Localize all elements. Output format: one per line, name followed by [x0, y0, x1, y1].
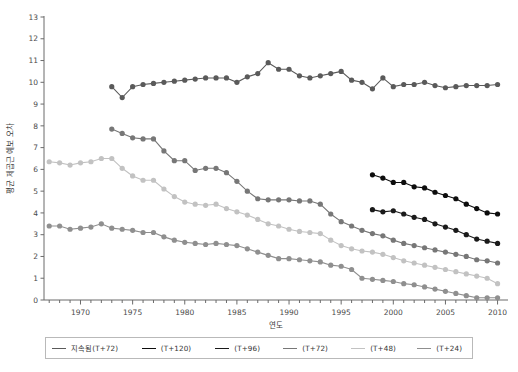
data-point-marker — [401, 258, 406, 263]
data-point-marker — [130, 173, 135, 178]
data-point-marker — [297, 73, 302, 78]
x-tick-label: 1975 — [123, 308, 142, 317]
legend-line-swatch — [142, 348, 156, 349]
series-path — [49, 224, 497, 298]
data-point-marker — [255, 250, 260, 255]
data-point-marker — [349, 78, 354, 83]
data-point-marker — [307, 230, 312, 235]
data-point-marker — [401, 281, 406, 286]
series-t24 — [47, 221, 501, 300]
data-point-marker — [328, 71, 333, 76]
data-point-marker — [307, 198, 312, 203]
data-point-marker — [245, 189, 250, 194]
data-point-marker — [266, 253, 271, 258]
data-point-marker — [57, 223, 62, 228]
data-point-marker — [464, 271, 469, 276]
data-point-marker — [485, 276, 490, 281]
data-point-marker — [297, 257, 302, 262]
data-point-marker — [182, 240, 187, 245]
data-point-marker — [276, 197, 281, 202]
data-point-marker — [67, 227, 72, 232]
data-point-marker — [464, 202, 469, 207]
legend-item-5[interactable]: (T+48) — [345, 338, 411, 358]
data-point-marker — [193, 202, 198, 207]
data-point-marker — [380, 278, 385, 283]
legend-label: (T+96) — [234, 344, 260, 353]
data-point-marker — [307, 75, 312, 80]
series-지속됨t72 — [109, 60, 500, 100]
data-point-marker — [495, 241, 500, 246]
data-point-marker — [151, 230, 156, 235]
data-point-marker — [370, 86, 375, 91]
data-point-marker — [318, 231, 323, 236]
data-point-marker — [464, 232, 469, 237]
data-point-marker — [422, 245, 427, 250]
data-point-marker — [266, 221, 271, 226]
series-t72 — [109, 127, 500, 266]
data-point-marker — [307, 258, 312, 263]
data-point-marker — [485, 258, 490, 263]
data-point-marker — [432, 247, 437, 252]
data-point-marker — [47, 159, 52, 164]
data-point-marker — [453, 196, 458, 201]
data-point-marker — [120, 95, 125, 100]
data-point-marker — [276, 256, 281, 261]
data-point-marker — [172, 158, 177, 163]
data-point-marker — [391, 279, 396, 284]
data-point-marker — [140, 230, 145, 235]
data-point-marker — [401, 241, 406, 246]
data-point-marker — [140, 82, 145, 87]
series-t120 — [370, 172, 500, 216]
data-point-marker — [412, 243, 417, 248]
data-point-marker — [182, 199, 187, 204]
data-point-marker — [370, 277, 375, 282]
x-tick-label: 1980 — [175, 308, 194, 317]
series-t96 — [370, 207, 500, 246]
data-point-marker — [432, 265, 437, 270]
legend-item-3[interactable]: (T+96) — [209, 338, 277, 358]
data-point-marker — [109, 226, 114, 231]
data-point-marker — [224, 75, 229, 80]
legend-item-4[interactable]: (T+72) — [277, 338, 345, 358]
data-point-marker — [443, 224, 448, 229]
legend-item-2[interactable]: (T+120) — [136, 338, 209, 358]
legend-item-1[interactable]: 지속됨(T+72) — [46, 338, 136, 358]
y-tick-label: 1 — [33, 274, 38, 283]
data-point-marker — [224, 206, 229, 211]
data-point-marker — [318, 73, 323, 78]
data-point-marker — [474, 257, 479, 262]
data-point-marker — [443, 289, 448, 294]
data-point-marker — [286, 197, 291, 202]
data-point-marker — [359, 228, 364, 233]
data-point-marker — [422, 80, 427, 85]
y-axis-title: 평균 제곱근 예보 오차 — [5, 123, 15, 193]
data-point-marker — [161, 148, 166, 153]
data-point-marker — [443, 85, 448, 90]
legend-item-6[interactable]: (T+24) — [411, 338, 472, 358]
data-point-marker — [203, 166, 208, 171]
data-point-marker — [255, 71, 260, 76]
data-point-marker — [380, 75, 385, 80]
data-point-marker — [412, 184, 417, 189]
data-point-marker — [412, 260, 417, 265]
data-point-marker — [339, 264, 344, 269]
data-point-marker — [401, 82, 406, 87]
data-point-marker — [443, 267, 448, 272]
data-point-marker — [182, 158, 187, 163]
data-point-marker — [234, 179, 239, 184]
chart-container: 0123456789101112131970197519801985199019… — [0, 0, 518, 372]
data-point-marker — [245, 246, 250, 251]
data-point-marker — [245, 213, 250, 218]
data-point-marker — [266, 60, 271, 65]
data-point-marker — [443, 193, 448, 198]
data-point-marker — [67, 162, 72, 167]
data-point-marker — [78, 226, 83, 231]
data-point-marker — [391, 255, 396, 260]
data-point-marker — [495, 211, 500, 216]
data-point-marker — [47, 223, 52, 228]
series-path — [112, 129, 498, 263]
data-point-marker — [151, 178, 156, 183]
data-point-marker — [109, 127, 114, 132]
data-point-marker — [213, 202, 218, 207]
data-point-marker — [328, 211, 333, 216]
